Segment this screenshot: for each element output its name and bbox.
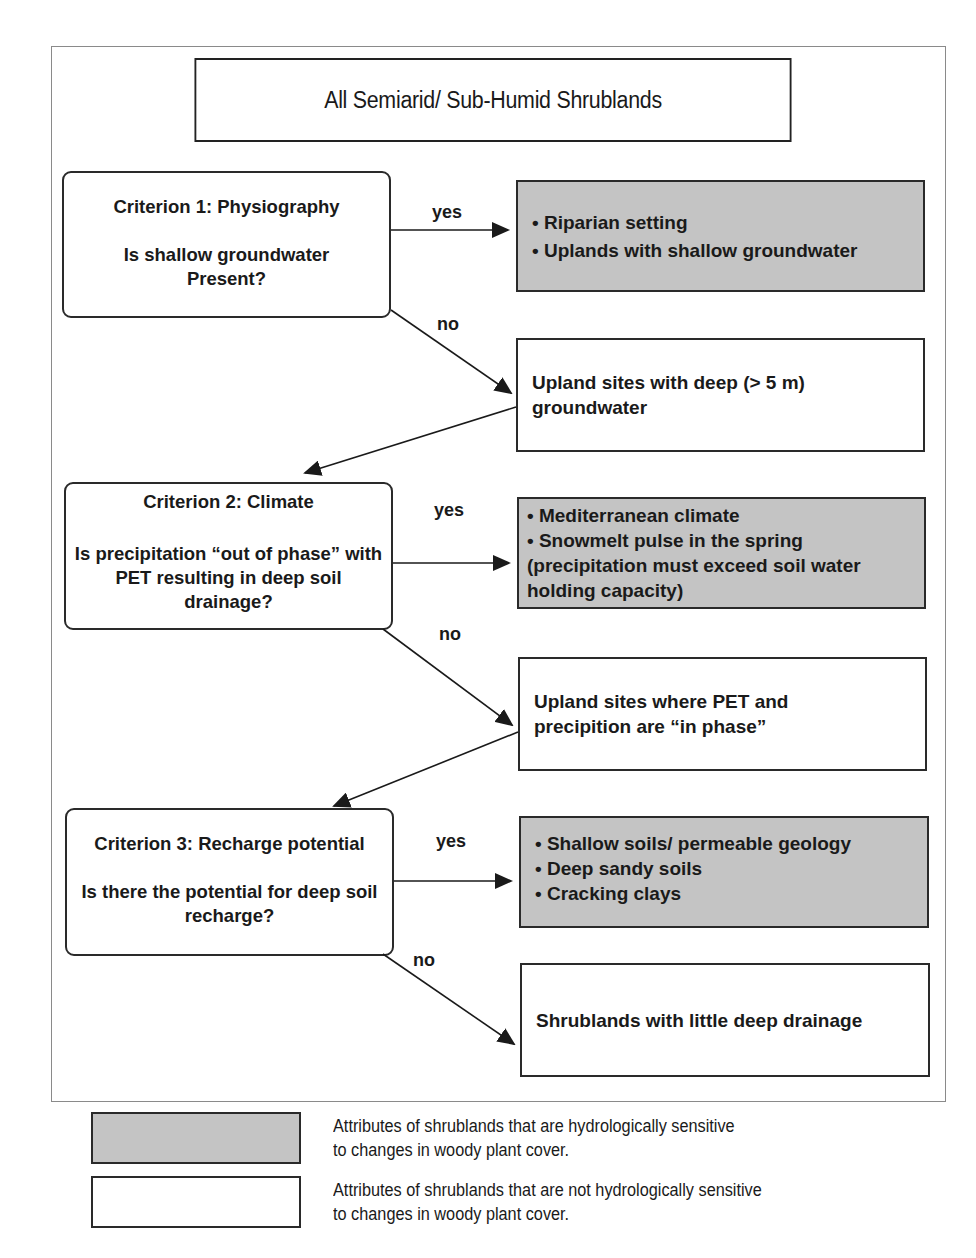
legend-swatch-not-sensitive xyxy=(91,1176,301,1228)
criterion-1-yes-label: yes xyxy=(432,202,462,223)
legend-swatch-sensitive xyxy=(91,1112,301,1164)
legend-text-not-sensitive: Attributes of shrublands that are not hy… xyxy=(333,1178,910,1226)
criterion-2-heading: Criterion 2: Climate xyxy=(143,491,314,512)
criterion-3-yes-label: yes xyxy=(436,831,466,852)
outcome-text: Shrublands with little deep drainage xyxy=(536,1008,914,1033)
criterion-2-box: Criterion 2: Climate Is precipitation “o… xyxy=(64,482,393,630)
criterion-1-no-outcome: Upland sites with deep (> 5 m) groundwat… xyxy=(516,338,925,452)
legend-line: Attributes of shrublands that are not hy… xyxy=(333,1178,910,1202)
legend-line: to changes in woody plant cover. xyxy=(333,1202,910,1226)
diagram-title-text: All Semiarid/ Sub-Humid Shrublands xyxy=(324,87,662,114)
criterion-3-heading: Criterion 3: Recharge potential xyxy=(94,833,364,854)
outcome-item: • Uplands with shallow groundwater xyxy=(532,238,909,263)
legend-text-sensitive: Attributes of shrublands that are hydrol… xyxy=(333,1114,910,1162)
outcome-item: • Shallow soils/ permeable geology xyxy=(535,831,913,856)
outcome-item: • Snowmelt pulse in the spring xyxy=(527,528,916,553)
criterion-3-no-label: no xyxy=(413,950,435,971)
criterion-3-box: Criterion 3: Recharge potential Is there… xyxy=(65,808,394,956)
outcome-item: • Cracking clays xyxy=(535,881,913,906)
outcome-text: Upland sites with deep (> 5 m) groundwat… xyxy=(532,370,842,420)
criterion-2-question: Is precipitation “out of phase” with PET… xyxy=(72,542,385,614)
criterion-1-heading: Criterion 1: Physiography xyxy=(113,196,339,217)
criterion-1-question: Is shallow groundwater Present? xyxy=(70,243,383,291)
criterion-3-question: Is there the potential for deep soil rec… xyxy=(69,880,390,928)
criterion-1-yes-outcome: • Riparian setting • Uplands with shallo… xyxy=(516,180,925,292)
outcome-item: • Mediterranean climate xyxy=(527,503,916,528)
criterion-2-no-label: no xyxy=(439,624,461,645)
criterion-1-no-label: no xyxy=(437,314,459,335)
outcome-text: Upland sites where PET and precipition a… xyxy=(534,689,834,739)
legend-line: Attributes of shrublands that are hydrol… xyxy=(333,1114,910,1138)
criterion-1-box: Criterion 1: Physiography Is shallow gro… xyxy=(62,171,391,318)
criterion-2-yes-outcome: • Mediterranean climate • Snowmelt pulse… xyxy=(517,497,926,609)
outcome-item: • Deep sandy soils xyxy=(535,856,913,881)
criterion-3-no-outcome: Shrublands with little deep drainage xyxy=(520,963,930,1077)
criterion-2-yes-label: yes xyxy=(434,500,464,521)
criterion-3-yes-outcome: • Shallow soils/ permeable geology • Dee… xyxy=(519,816,929,928)
criterion-2-no-outcome: Upland sites where PET and precipition a… xyxy=(518,657,927,771)
diagram-title: All Semiarid/ Sub-Humid Shrublands xyxy=(194,58,791,142)
outcome-note: (precipitation must exceed soil water ho… xyxy=(527,553,916,603)
legend-line: to changes in woody plant cover. xyxy=(333,1138,910,1162)
outcome-item: • Riparian setting xyxy=(532,210,909,235)
